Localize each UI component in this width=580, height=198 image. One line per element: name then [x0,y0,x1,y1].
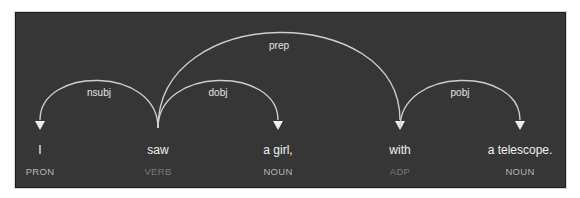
arrowhead-icon [35,121,45,130]
arc-label-dobj: dobj [209,87,228,98]
token-word: with [388,143,410,157]
token-pos-tag: ADP [390,166,410,177]
arc-label-prep: prep [269,40,289,51]
token-word: I [38,143,41,157]
token-4: a telescope. NOUN [488,143,553,177]
arc-nsubj: nsubj [35,80,158,130]
arc-label-pobj: pobj [451,87,470,98]
token-2: a girl, NOUN [263,143,292,177]
token-pos-tag: VERB [144,166,171,177]
arc-label-nsubj: nsubj [87,87,111,98]
token-word: a telescope. [488,143,553,157]
arc-pobj: pobj [400,80,525,130]
arrowhead-icon [273,121,283,130]
token-3: with ADP [388,143,410,177]
token-word: saw [147,143,169,157]
token-word: a girl, [263,143,292,157]
token-1: saw VERB [144,143,171,177]
token-pos-tag: NOUN [505,166,534,177]
token-pos-tag: NOUN [263,166,292,177]
dependency-diagram: nsubj dobj prep pobj I PRON saw VERB a g… [0,0,580,198]
arc-prep: prep [158,32,405,130]
arc-dobj: dobj [158,80,283,130]
token-pos-tag: PRON [26,166,55,177]
token-0: I PRON [26,143,55,177]
arrowhead-icon [515,121,525,130]
